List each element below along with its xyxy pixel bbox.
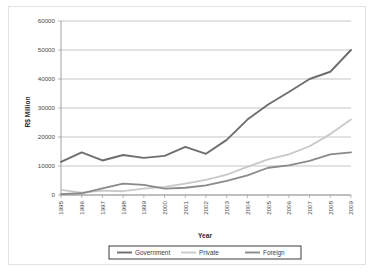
x-tick-label: 2003 bbox=[223, 200, 230, 214]
x-tick-label: 2001 bbox=[182, 200, 189, 214]
x-axis-title: Year bbox=[198, 232, 212, 239]
y-tick-label: 50000 bbox=[38, 46, 56, 53]
y-tick-label: 60000 bbox=[38, 17, 56, 24]
x-tick-label: 2005 bbox=[265, 200, 272, 214]
legend-label-foreign[interactable]: Foreign bbox=[263, 249, 285, 257]
y-tick-label: 30000 bbox=[38, 104, 56, 111]
x-tick-label: 2000 bbox=[161, 200, 168, 214]
x-tick-label: 2006 bbox=[285, 200, 292, 214]
x-tick-label: 2007 bbox=[306, 200, 313, 214]
legend-label-private[interactable]: Private bbox=[199, 249, 219, 256]
legend-label-government[interactable]: Government bbox=[135, 249, 170, 256]
y-axis-title: R$ Million bbox=[24, 96, 32, 127]
series-line-foreign bbox=[61, 152, 351, 194]
chart-legend: GovernmentPrivateForeign bbox=[109, 246, 301, 259]
x-tick-label: 1999 bbox=[140, 200, 147, 214]
x-tick-label: 1997 bbox=[99, 200, 106, 214]
x-tick-label: 1995 bbox=[57, 200, 64, 214]
line-chart: 0100002000030000400005000060000 19951996… bbox=[0, 0, 377, 273]
series-line-private bbox=[61, 120, 351, 193]
x-tick-label: 2008 bbox=[327, 200, 334, 214]
y-tick-label: 0 bbox=[52, 191, 56, 198]
gridline-group bbox=[61, 21, 351, 195]
series-line-government bbox=[61, 50, 351, 162]
y-tick-label: 10000 bbox=[38, 162, 56, 169]
y-tick-label: 20000 bbox=[38, 133, 56, 140]
x-tickmark-group bbox=[61, 195, 351, 198]
x-tick-label: 2002 bbox=[202, 200, 209, 214]
y-tick-label: 40000 bbox=[38, 75, 56, 82]
x-tick-label: 2004 bbox=[244, 200, 251, 214]
x-tick-label: 1996 bbox=[78, 200, 85, 214]
x-tick-label-group: 1995199619971998199920002001200220032004… bbox=[57, 200, 354, 214]
y-tick-label-group: 0100002000030000400005000060000 bbox=[38, 17, 61, 198]
series-group bbox=[61, 50, 351, 194]
x-tick-label: 2009 bbox=[347, 200, 354, 214]
x-tick-label: 1998 bbox=[120, 200, 127, 214]
